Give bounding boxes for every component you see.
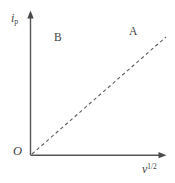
region-label-b: B [54, 32, 62, 44]
plot-canvas [0, 0, 175, 183]
y-axis-label: ip [11, 12, 18, 26]
origin-label: O [13, 145, 22, 158]
x-axis-arrow-icon [159, 152, 167, 158]
series-label-a: A [129, 26, 137, 38]
x-axis-label-superscript: 1/2 [147, 162, 157, 171]
x-axis-label: v1/2 [142, 163, 157, 175]
y-axis-arrow-icon [27, 11, 33, 19]
series-line-a [32, 37, 166, 154]
y-axis-label-subscript: p [14, 17, 18, 26]
plot-figure: ip v1/2 O B A [0, 0, 175, 183]
